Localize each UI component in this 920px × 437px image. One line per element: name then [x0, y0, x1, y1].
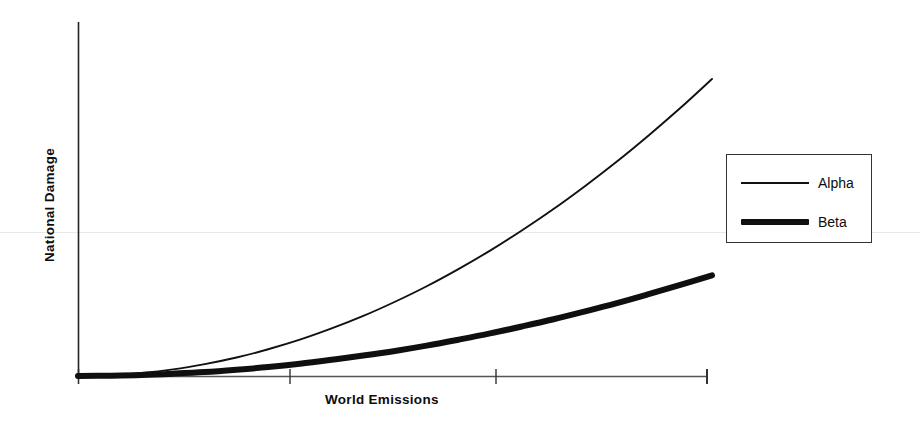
legend-swatch-beta — [741, 219, 809, 225]
legend-line-thick-icon — [741, 219, 809, 225]
chart-legend: Alpha Beta — [726, 154, 872, 243]
legend-label-beta: Beta — [818, 214, 847, 230]
legend-label-alpha: Alpha — [818, 175, 854, 191]
legend-swatch-alpha — [741, 182, 809, 184]
legend-line-thin-icon — [741, 182, 809, 184]
chart-figure: National Damage World Emissions Alpha Be… — [0, 0, 920, 437]
y-axis-label: National Damage — [42, 148, 57, 262]
series-line-alpha — [78, 79, 712, 376]
x-axis-label: World Emissions — [325, 392, 439, 407]
series-line-beta — [78, 275, 712, 376]
legend-item-beta: Beta — [727, 211, 873, 233]
legend-item-alpha: Alpha — [727, 172, 873, 194]
